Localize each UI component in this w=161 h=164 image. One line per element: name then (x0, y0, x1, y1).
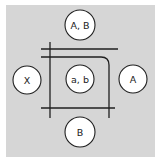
node-top: A, B (65, 10, 95, 40)
node-center: a, b (66, 65, 94, 93)
node-left-label: X (24, 75, 31, 86)
node-right-label: A (130, 74, 137, 85)
node-right: A (119, 65, 147, 93)
node-top-label: A, B (70, 20, 89, 31)
node-bottom-label: B (77, 127, 84, 138)
diagram-canvas: A, B X a, b A B (0, 0, 161, 164)
node-left: X (13, 66, 41, 94)
node-center-label: a, b (71, 74, 89, 85)
node-bottom: B (65, 117, 95, 147)
